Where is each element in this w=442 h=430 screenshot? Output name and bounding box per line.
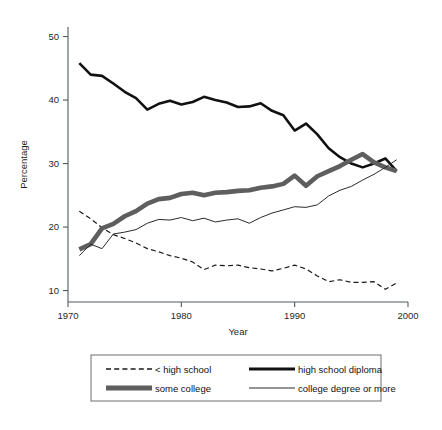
- chart-figure: 1020304050 1970198019902000 Percentage Y…: [0, 0, 442, 430]
- y-tick-label: 20: [48, 221, 59, 232]
- x-tick-label: 1980: [171, 310, 192, 321]
- legend-label: high school diploma: [298, 364, 383, 375]
- y-axis-title: Percentage: [18, 140, 29, 189]
- y-tick-label: 40: [48, 94, 59, 105]
- y-tick-label: 30: [48, 158, 59, 169]
- legend-label: < high school: [155, 364, 211, 375]
- x-tick-label: 1970: [57, 310, 78, 321]
- legend-label: college degree or more: [298, 383, 396, 394]
- legend-border: [91, 355, 381, 401]
- x-tick-label: 2000: [397, 310, 418, 321]
- y-tick-label: 10: [48, 285, 59, 296]
- x-tick-label: 1990: [284, 310, 305, 321]
- legend-label: some college: [155, 383, 211, 394]
- y-tick-label: 50: [48, 31, 59, 42]
- x-axis-title: Year: [228, 326, 247, 337]
- chart-legend: < high schoolhigh school diplomasome col…: [91, 355, 396, 401]
- line-chart: 1020304050 1970198019902000 Percentage Y…: [0, 0, 442, 430]
